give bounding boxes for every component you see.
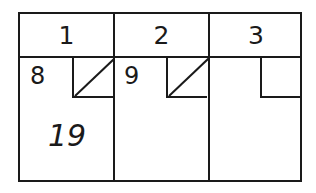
column-header-2: 2	[115, 14, 208, 57]
cell-1-main-value: 19	[48, 118, 86, 153]
cell-3-corner-box	[260, 58, 301, 98]
cell-1-left-value: 8	[30, 62, 45, 90]
cell-2-left-value: 9	[124, 62, 139, 90]
diagonal-slash-icon	[168, 58, 209, 98]
column-header-3: 3	[210, 14, 302, 57]
grid-table: 1 2 3 8 19 9	[18, 12, 302, 182]
column-header-1: 1	[20, 14, 113, 57]
cell-1-corner-box	[72, 58, 113, 98]
cell-2-corner-box	[166, 58, 207, 98]
diagonal-slash-icon	[74, 58, 115, 98]
